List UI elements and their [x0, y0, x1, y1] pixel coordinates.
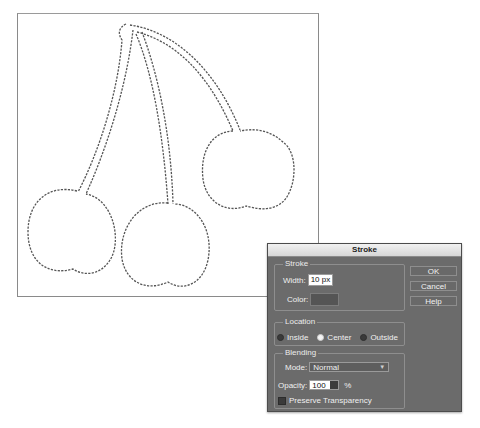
color-swatch[interactable] — [310, 293, 339, 306]
preserve-transparency-checkbox[interactable] — [278, 397, 286, 405]
width-label: Width: — [283, 276, 306, 285]
location-outside-radio[interactable] — [360, 334, 367, 341]
width-input[interactable]: 10 px — [308, 274, 334, 286]
opacity-unit: % — [344, 381, 351, 390]
stroke-group: Stroke Width: 10 px Color: — [274, 264, 405, 311]
mode-value: Normal — [313, 363, 339, 372]
cancel-button[interactable]: Cancel — [410, 281, 457, 291]
location-inside-label[interactable]: Inside — [287, 333, 308, 342]
stroke-group-title: Stroke — [283, 259, 310, 269]
chevron-down-icon: ▼ — [379, 364, 385, 370]
location-group: Location Inside Center Outside — [274, 322, 405, 346]
stroke-dialog: Stroke Stroke Width: 10 px Color: Locati… — [267, 243, 462, 412]
ok-button[interactable]: OK — [410, 266, 457, 276]
blending-group-title: Blending — [283, 348, 318, 358]
opacity-slider-toggle[interactable] — [330, 381, 338, 389]
mode-select[interactable]: Normal ▼ — [309, 362, 389, 372]
location-center-label[interactable]: Center — [327, 333, 351, 342]
help-button[interactable]: Help — [410, 296, 457, 306]
opacity-label: Opacity: — [278, 381, 307, 390]
location-group-title: Location — [283, 317, 317, 327]
location-center-radio[interactable] — [317, 334, 324, 341]
opacity-value: 100 — [310, 381, 330, 389]
location-inside-radio[interactable] — [277, 334, 284, 341]
opacity-input[interactable]: 100 — [309, 380, 339, 390]
preserve-transparency-label[interactable]: Preserve Transparency — [289, 396, 372, 405]
location-outside-label[interactable]: Outside — [370, 333, 398, 342]
dialog-title: Stroke — [268, 244, 461, 257]
mode-label: Mode: — [285, 363, 307, 372]
blending-group: Blending Mode: Normal ▼ Opacity: 100 % P… — [274, 353, 405, 409]
color-label: Color: — [287, 295, 308, 304]
